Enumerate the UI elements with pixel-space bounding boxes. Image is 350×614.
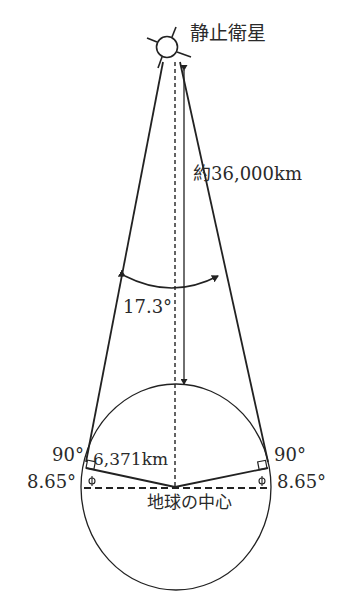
- half-angle-label-left: 8.65°: [27, 473, 76, 491]
- right-angle-label-right: 90°: [274, 446, 306, 464]
- right-radius-line: [175, 468, 268, 487]
- satellite-icon: [147, 27, 191, 68]
- satellite-label: 静止衛星: [190, 24, 266, 43]
- right-angle-label-left: 90°: [52, 446, 84, 464]
- left-tangent-line: [86, 62, 163, 462]
- angle-label: 17.3°: [123, 298, 172, 316]
- distance-label: 約36,000km: [193, 165, 302, 183]
- right-tangent-line: [180, 62, 268, 462]
- half-angle-label-right: 8.65°: [277, 473, 326, 491]
- right-small-angle-marker: [259, 476, 265, 486]
- left-small-angle-marker: [89, 476, 95, 486]
- radius-label: 6,371km: [93, 451, 168, 468]
- angle-arc: [125, 276, 218, 288]
- left-radius-line: [86, 468, 175, 487]
- earth-center-label: 地球の中心: [147, 494, 232, 511]
- geostationary-satellite-diagram: [0, 0, 350, 614]
